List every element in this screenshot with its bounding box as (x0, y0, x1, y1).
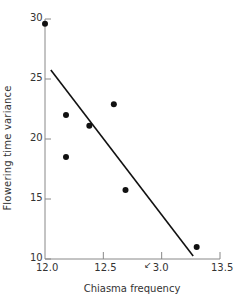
data-point (86, 123, 92, 129)
data-point (42, 21, 48, 27)
data-point (63, 154, 69, 160)
data-point (111, 101, 117, 107)
data-point (63, 112, 69, 118)
x-axis-label: Chiasma frequency (84, 283, 181, 294)
regression-line (51, 70, 193, 256)
y-tick-label: 15 (30, 193, 43, 203)
x-tick-label: 12.5 (94, 263, 116, 273)
y-tick-label: 20 (30, 133, 43, 143)
y-tick-label: 30 (30, 13, 43, 23)
pencil-mark-annotation: ↙ (144, 260, 152, 270)
x-tick-label: 3.0 (153, 263, 169, 273)
x-tick-label: 12.0 (36, 263, 58, 273)
regression-line-segment (51, 70, 193, 256)
axes (45, 19, 220, 259)
x-tick-label: 13.5 (211, 263, 233, 273)
y-axis-label: Flowering time variance (2, 85, 13, 210)
data-point (123, 187, 129, 193)
y-tick-label: 25 (30, 73, 43, 83)
data-points (42, 21, 200, 250)
data-point (194, 244, 200, 250)
